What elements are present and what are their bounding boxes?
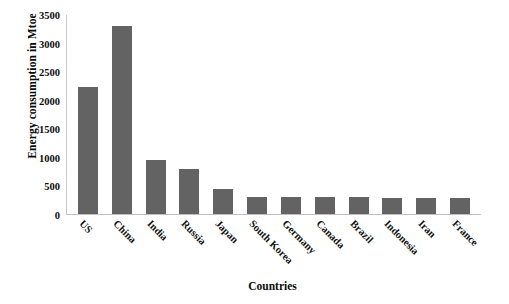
x-axis-tick-label: Japan [213, 218, 240, 245]
bar[interactable] [146, 160, 166, 214]
x-label-slot: Japan [206, 216, 240, 274]
x-label-slot: Iran [409, 216, 443, 274]
bar[interactable] [213, 189, 233, 214]
plot-area [66, 15, 481, 215]
x-axis-tick-label: Brazil [349, 218, 376, 245]
x-axis-tick-label: China [111, 218, 138, 245]
x-label-slot: France [443, 216, 477, 274]
bar[interactable] [179, 169, 199, 214]
x-label-slot: Germany [274, 216, 308, 274]
bar-slot [105, 15, 139, 214]
bar-slot [71, 15, 105, 214]
y-axis-tick-label: 1500 [18, 124, 60, 135]
bar-slot [409, 15, 443, 214]
x-axis-tick-label: France [450, 218, 480, 248]
bars-layer [67, 15, 481, 214]
bar[interactable] [315, 197, 335, 214]
y-axis-tick-labels: 3500300025002000150010005000 [18, 14, 60, 215]
x-label-slot: US [70, 216, 104, 274]
x-label-slot: Brazil [341, 216, 375, 274]
x-label-slot: Canada [307, 216, 341, 274]
bar[interactable] [112, 26, 132, 214]
x-label-slot: China [104, 216, 138, 274]
x-label-slot: India [138, 216, 172, 274]
bar[interactable] [349, 197, 369, 214]
y-axis-tick-label: 2000 [18, 95, 60, 106]
y-axis-tick-label: 3000 [18, 38, 60, 49]
x-axis-tick-label: Russia [179, 218, 208, 247]
bar[interactable] [78, 87, 98, 214]
bar[interactable] [416, 198, 436, 214]
x-label-slot: Indonesia [375, 216, 409, 274]
y-axis-tick-label: 3500 [18, 10, 60, 21]
x-axis-title: Countries [0, 280, 509, 292]
y-axis-tick-label: 2500 [18, 67, 60, 78]
bar-slot [375, 15, 409, 214]
bar[interactable] [247, 197, 267, 214]
x-label-slot: South Korea [240, 216, 274, 274]
bar-slot [240, 15, 274, 214]
x-axis-tick-label: Iran [416, 218, 438, 240]
bar-slot [443, 15, 477, 214]
bar-slot [274, 15, 308, 214]
bar-slot [342, 15, 376, 214]
x-label-slot: Russia [172, 216, 206, 274]
y-axis-tick-label: 1000 [18, 152, 60, 163]
bar[interactable] [382, 198, 402, 214]
bar-slot [139, 15, 173, 214]
y-axis-tick-label: 500 [18, 181, 60, 192]
y-axis-tick-label: 0 [18, 210, 60, 221]
x-axis-tick-label: India [145, 218, 170, 243]
bar[interactable] [450, 198, 470, 214]
bar[interactable] [281, 197, 301, 214]
bar-slot [206, 15, 240, 214]
x-axis-tick-labels: USChinaIndiaRussiaJapanSouth KoreaGerman… [66, 216, 481, 274]
bar-slot [172, 15, 206, 214]
bar-chart: Energy consumption in Mtoe 3500300025002… [0, 0, 509, 304]
x-axis-tick-label: US [77, 218, 94, 235]
bar-slot [308, 15, 342, 214]
